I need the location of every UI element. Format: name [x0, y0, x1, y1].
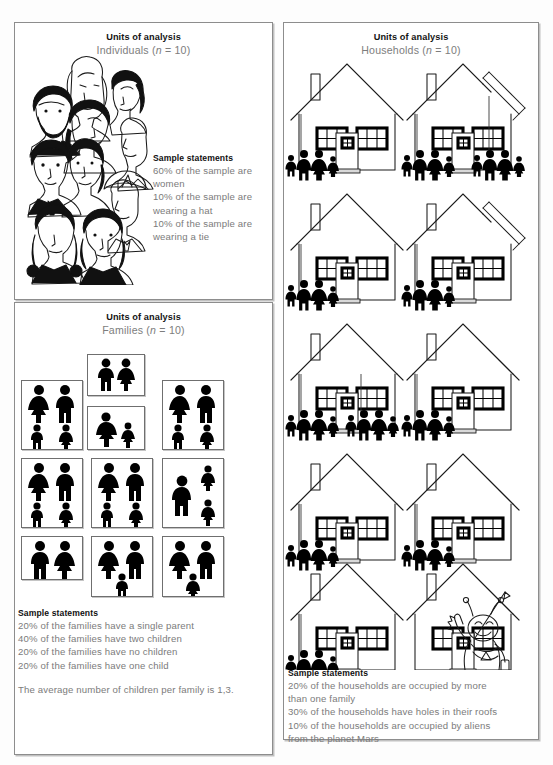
families-summary-line: The average number of children per famil… — [18, 683, 258, 696]
families-sub-prefix: Families ( — [102, 324, 150, 336]
families-sample-statements: Sample statements 20% of the families ha… — [18, 608, 258, 696]
individuals-faces-illustration — [26, 55, 158, 285]
families-header: Units of analysis Families (n = 10) — [15, 303, 272, 338]
individuals-statement-line: 60% of the sample are — [153, 164, 263, 177]
households-sample-statements: Sample statements 20% of the households … — [288, 668, 534, 745]
individuals-heading: Units of analysis — [15, 31, 272, 43]
family-box — [21, 458, 83, 528]
households-statement-line: from the planet Mars — [288, 732, 534, 745]
families-statement-line: 40% of the families have two children — [18, 632, 258, 645]
households-statement-line: than one family — [288, 692, 534, 705]
house-10 — [407, 564, 519, 670]
individuals-statement-line: wearing a hat — [153, 204, 263, 217]
family-box — [91, 458, 153, 528]
families-statement-line: 20% of the families have no children — [18, 645, 258, 658]
households-statements-title: Sample statements — [288, 668, 534, 678]
individuals-statement-line: 10% of the sample are — [153, 217, 263, 230]
house-3 — [286, 194, 404, 311]
family-box — [162, 458, 224, 528]
households-illustration — [283, 40, 539, 670]
family-box — [162, 536, 224, 597]
family-box — [91, 536, 153, 597]
house-9 — [286, 564, 404, 670]
family-box — [21, 536, 83, 580]
families-statements-title: Sample statements — [18, 608, 258, 618]
families-statement-line: 20% of the families have one child — [18, 659, 258, 672]
house-8 — [402, 454, 520, 571]
families-subheading: Families (n = 10) — [15, 323, 272, 338]
families-grid — [14, 352, 273, 597]
individuals-sample-statements: Sample statements 60% of the sample are … — [153, 153, 263, 243]
households-statement-line: 20% of the households are occupied by mo… — [288, 679, 534, 692]
house-7 — [286, 454, 404, 571]
house-4 — [402, 194, 526, 311]
house-6 — [402, 324, 520, 441]
family-box — [162, 380, 224, 450]
households-statement-line: 10% of the households are occupied by al… — [288, 719, 534, 732]
individuals-statement-line: 10% of the sample are — [153, 190, 263, 203]
families-sub-suffix: = 10) — [156, 324, 185, 336]
house-2 — [402, 64, 526, 181]
family-box — [87, 354, 145, 396]
family-box — [87, 406, 145, 450]
individuals-statement-line: wearing a tie — [153, 230, 263, 243]
family-box — [21, 380, 83, 450]
figure-canvas: Units of analysis Individuals (n = 10) — [0, 0, 553, 765]
individuals-sub-suffix: = 10) — [162, 44, 191, 56]
families-heading: Units of analysis — [15, 311, 272, 323]
individuals-statement-line: women — [153, 177, 263, 190]
individuals-header: Units of analysis Individuals (n = 10) — [15, 23, 272, 58]
house-1 — [286, 64, 404, 181]
house-5 — [286, 324, 404, 441]
families-statement-line: 20% of the families have a single parent — [18, 619, 258, 632]
households-statement-line: 30% of the households have holes in thei… — [288, 705, 534, 718]
spacer — [18, 672, 258, 683]
individuals-statements-title: Sample statements — [153, 153, 263, 163]
